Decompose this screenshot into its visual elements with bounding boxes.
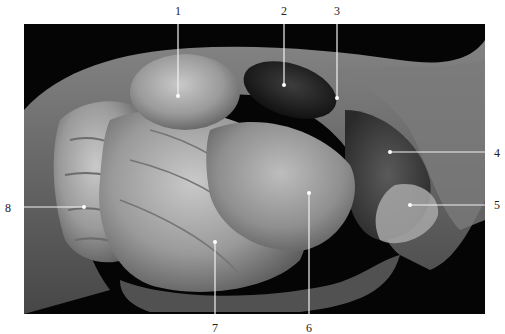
leader-dot-6 xyxy=(307,191,311,195)
leader-dot-2 xyxy=(282,83,286,87)
label-3: 3 xyxy=(334,5,340,17)
label-5: 5 xyxy=(494,199,500,211)
leader-dot-8 xyxy=(82,205,86,209)
label-2: 2 xyxy=(281,5,287,17)
organ-1-rounded xyxy=(130,54,240,130)
leader-dot-3 xyxy=(335,96,339,100)
leader-dot-5 xyxy=(408,203,412,207)
leader-dot-1 xyxy=(176,94,180,98)
leader-dot-7 xyxy=(213,240,217,244)
dissection-photo xyxy=(0,0,505,334)
leader-dot-4 xyxy=(388,150,392,154)
label-6: 6 xyxy=(306,322,312,334)
label-1: 1 xyxy=(175,5,181,17)
label-8: 8 xyxy=(5,202,11,214)
label-7: 7 xyxy=(212,322,218,334)
label-4: 4 xyxy=(494,147,500,159)
